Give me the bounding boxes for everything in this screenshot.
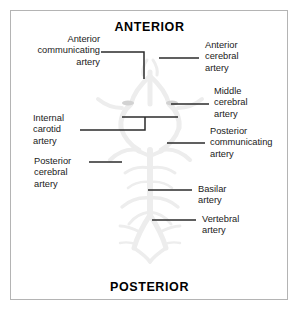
label-basilar-artery: Basilar artery <box>198 184 258 207</box>
label-anterior-communicating-artery: Anterior communicating artery <box>18 34 100 68</box>
label-anterior-cerebral-artery: Anterior cerebral artery <box>205 40 285 74</box>
cerebral-artery-diagram: ANTERIOR POSTERIOR Anterior communicatin… <box>0 0 299 311</box>
label-posterior-cerebral-artery: Posterior cerebral artery <box>34 156 100 190</box>
heading-anterior: ANTERIOR <box>0 20 299 34</box>
label-vertebral-artery: Vertebral artery <box>202 214 268 237</box>
label-internal-carotid-artery: Internal carotid artery <box>33 113 93 147</box>
heading-posterior: POSTERIOR <box>0 280 299 294</box>
label-middle-cerebral-artery: Middle cerebral artery <box>214 86 288 120</box>
label-posterior-communicating-artery: Posterior communicating artery <box>210 126 290 160</box>
